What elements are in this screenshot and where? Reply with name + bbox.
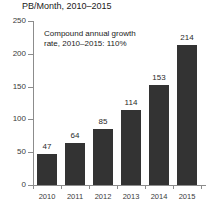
y-axis-tick: [28, 119, 34, 120]
bar: [93, 129, 113, 185]
bar: [65, 143, 85, 185]
chart-title: PB/Month, 2010–2015: [22, 1, 112, 12]
y-axis-line: [33, 21, 34, 185]
bar-value-label: 85: [88, 118, 118, 126]
bar-value-label: 153: [144, 74, 174, 82]
bar-chart: PB/Month, 2010–2015 050100150200250 4764…: [0, 0, 219, 214]
y-axis-tick: [28, 87, 34, 88]
cagr-annotation-line-1: Compound annual growth: [44, 29, 156, 39]
y-axis-tick-label: 0: [0, 181, 26, 189]
x-axis-tick: [89, 185, 90, 189]
y-axis-tick-label: 250: [0, 17, 26, 25]
bar-value-label: 47: [32, 143, 62, 151]
y-axis-tick-label: 100: [0, 115, 26, 123]
bar-value-label: 64: [60, 132, 90, 140]
bar: [37, 154, 57, 185]
x-axis-tick: [33, 185, 34, 189]
x-axis-label: 2012: [89, 193, 117, 201]
y-axis-tick-label: 50: [0, 148, 26, 156]
x-axis-tick: [117, 185, 118, 189]
bar: [121, 110, 141, 185]
x-axis-label: 2011: [61, 193, 89, 201]
x-axis-tick: [173, 185, 174, 189]
x-axis-label: 2014: [145, 193, 173, 201]
cagr-annotation-line-2: rate, 2010–2015: 110%: [44, 39, 156, 49]
x-axis-line: [33, 185, 206, 186]
cagr-annotation: Compound annual growth rate, 2010–2015: …: [44, 29, 156, 48]
x-axis-tick: [61, 185, 62, 189]
y-axis-tick-label: 150: [0, 83, 26, 91]
bar: [177, 45, 197, 185]
x-axis-tick: [145, 185, 146, 189]
y-axis-tick: [28, 54, 34, 55]
bar-value-label: 214: [172, 34, 202, 42]
x-axis-label: 2013: [117, 193, 145, 201]
y-axis-tick-label: 200: [0, 50, 26, 58]
x-axis-label: 2010: [33, 193, 61, 201]
x-axis-tick: [201, 185, 202, 189]
bar: [149, 85, 169, 185]
y-axis-tick: [28, 152, 34, 153]
bar-value-label: 114: [116, 99, 146, 107]
y-axis-tick: [28, 21, 34, 22]
x-axis-label: 2015: [173, 193, 201, 201]
